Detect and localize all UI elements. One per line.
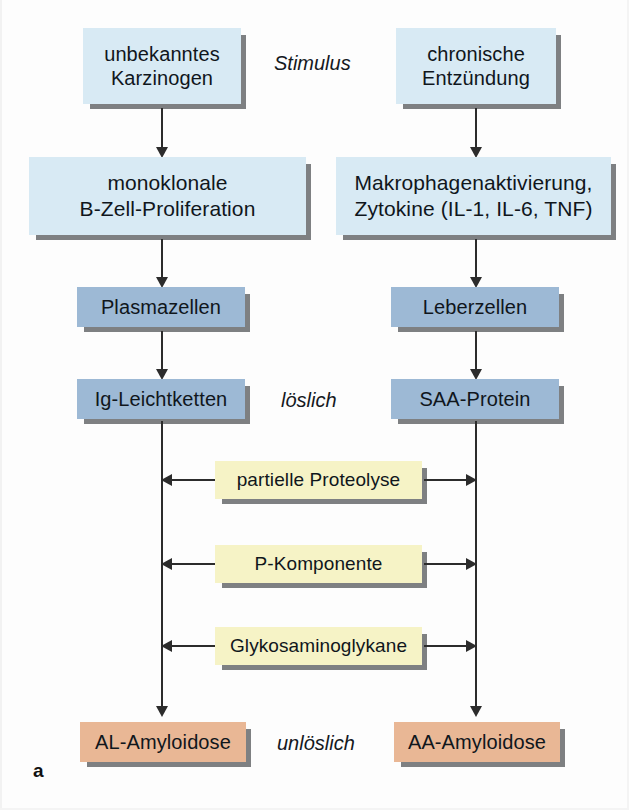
box-modifier-3-label: Glykosaminoglykane: [215, 634, 422, 657]
box-right-protein[interactable]: SAA-Protein: [391, 379, 559, 419]
label-loeslich: löslich: [281, 389, 337, 412]
arrowhead-right-to-outcome: [470, 706, 482, 717]
box-right-outcome-label: AA-Amyloidose: [394, 730, 560, 754]
connector-right-stimulus-to-process: [475, 108, 477, 151]
connector-left-stimulus-to-process: [161, 108, 163, 151]
box-left-protein-label: Ig-Leichtketten: [77, 387, 245, 411]
arrowhead-modifier-2-left: [161, 558, 172, 570]
connector-modifier-1-left: [170, 479, 215, 481]
box-left-outcome[interactable]: AL-Amyloidose: [80, 722, 246, 762]
connector-modifier-1-right: [424, 479, 467, 481]
connector-modifier-3-right: [424, 645, 467, 647]
box-right-stimulus-line1: chronische: [396, 42, 556, 66]
box-left-process-line2: B-Zell-Proliferation: [29, 196, 306, 222]
box-left-stimulus-line1: unbekanntes: [83, 42, 241, 66]
box-left-protein[interactable]: Ig-Leichtketten: [77, 379, 245, 419]
arrowhead-modifier-3-left: [161, 640, 172, 652]
box-left-stimulus-line2: Karzinogen: [83, 66, 241, 90]
box-right-process-line2: Zytokine (IL-1, IL-6, TNF): [336, 196, 611, 222]
box-left-process[interactable]: monoklonale B-Zell-Proliferation: [29, 157, 306, 235]
box-right-stimulus-line2: Entzündung: [396, 66, 556, 90]
box-left-cells-label: Plasmazellen: [77, 295, 245, 319]
box-modifier-2-label: P-Komponente: [215, 552, 422, 575]
box-left-outcome-label: AL-Amyloidose: [80, 730, 246, 754]
box-right-cells-label: Leberzellen: [391, 295, 559, 319]
label-unloeslich: unlöslich: [277, 732, 355, 755]
arrowhead-left-to-outcome: [156, 706, 168, 717]
connector-modifier-2-left: [170, 563, 215, 565]
label-stimulus: Stimulus: [274, 52, 351, 75]
box-right-process-line1: Makrophagenaktivierung,: [336, 170, 611, 196]
arrowhead-modifier-1-right: [466, 474, 477, 486]
box-left-process-line1: monoklonale: [29, 170, 306, 196]
connector-right-process-to-cells: [475, 239, 477, 281]
box-left-stimulus[interactable]: unbekanntes Karzinogen: [83, 28, 241, 104]
connector-right-cells-to-protein: [475, 331, 477, 373]
box-right-cells[interactable]: Leberzellen: [391, 287, 559, 327]
frame-edge-left: [0, 0, 2, 810]
box-modifier-1[interactable]: partielle Proteolyse: [215, 461, 422, 499]
connector-left-process-to-cells: [161, 239, 163, 281]
figure-canvas: unbekanntes Karzinogen chronische Entzün…: [0, 0, 629, 810]
box-modifier-3[interactable]: Glykosaminoglykane: [215, 627, 422, 665]
arrowhead-modifier-3-right: [466, 640, 477, 652]
arrowhead-modifier-1-left: [161, 474, 172, 486]
box-modifier-2[interactable]: P-Komponente: [215, 545, 422, 583]
arrowhead-modifier-2-right: [466, 558, 477, 570]
box-modifier-1-label: partielle Proteolyse: [215, 468, 422, 491]
connector-left-cells-to-protein: [161, 331, 163, 373]
box-right-protein-label: SAA-Protein: [391, 387, 559, 411]
box-right-stimulus[interactable]: chronische Entzündung: [396, 28, 556, 104]
box-left-cells[interactable]: Plasmazellen: [77, 287, 245, 327]
connector-modifier-3-left: [170, 645, 215, 647]
panel-letter: a: [33, 760, 44, 782]
connector-modifier-2-right: [424, 563, 467, 565]
box-right-process[interactable]: Makrophagenaktivierung, Zytokine (IL-1, …: [336, 157, 611, 235]
box-right-outcome[interactable]: AA-Amyloidose: [394, 722, 560, 762]
